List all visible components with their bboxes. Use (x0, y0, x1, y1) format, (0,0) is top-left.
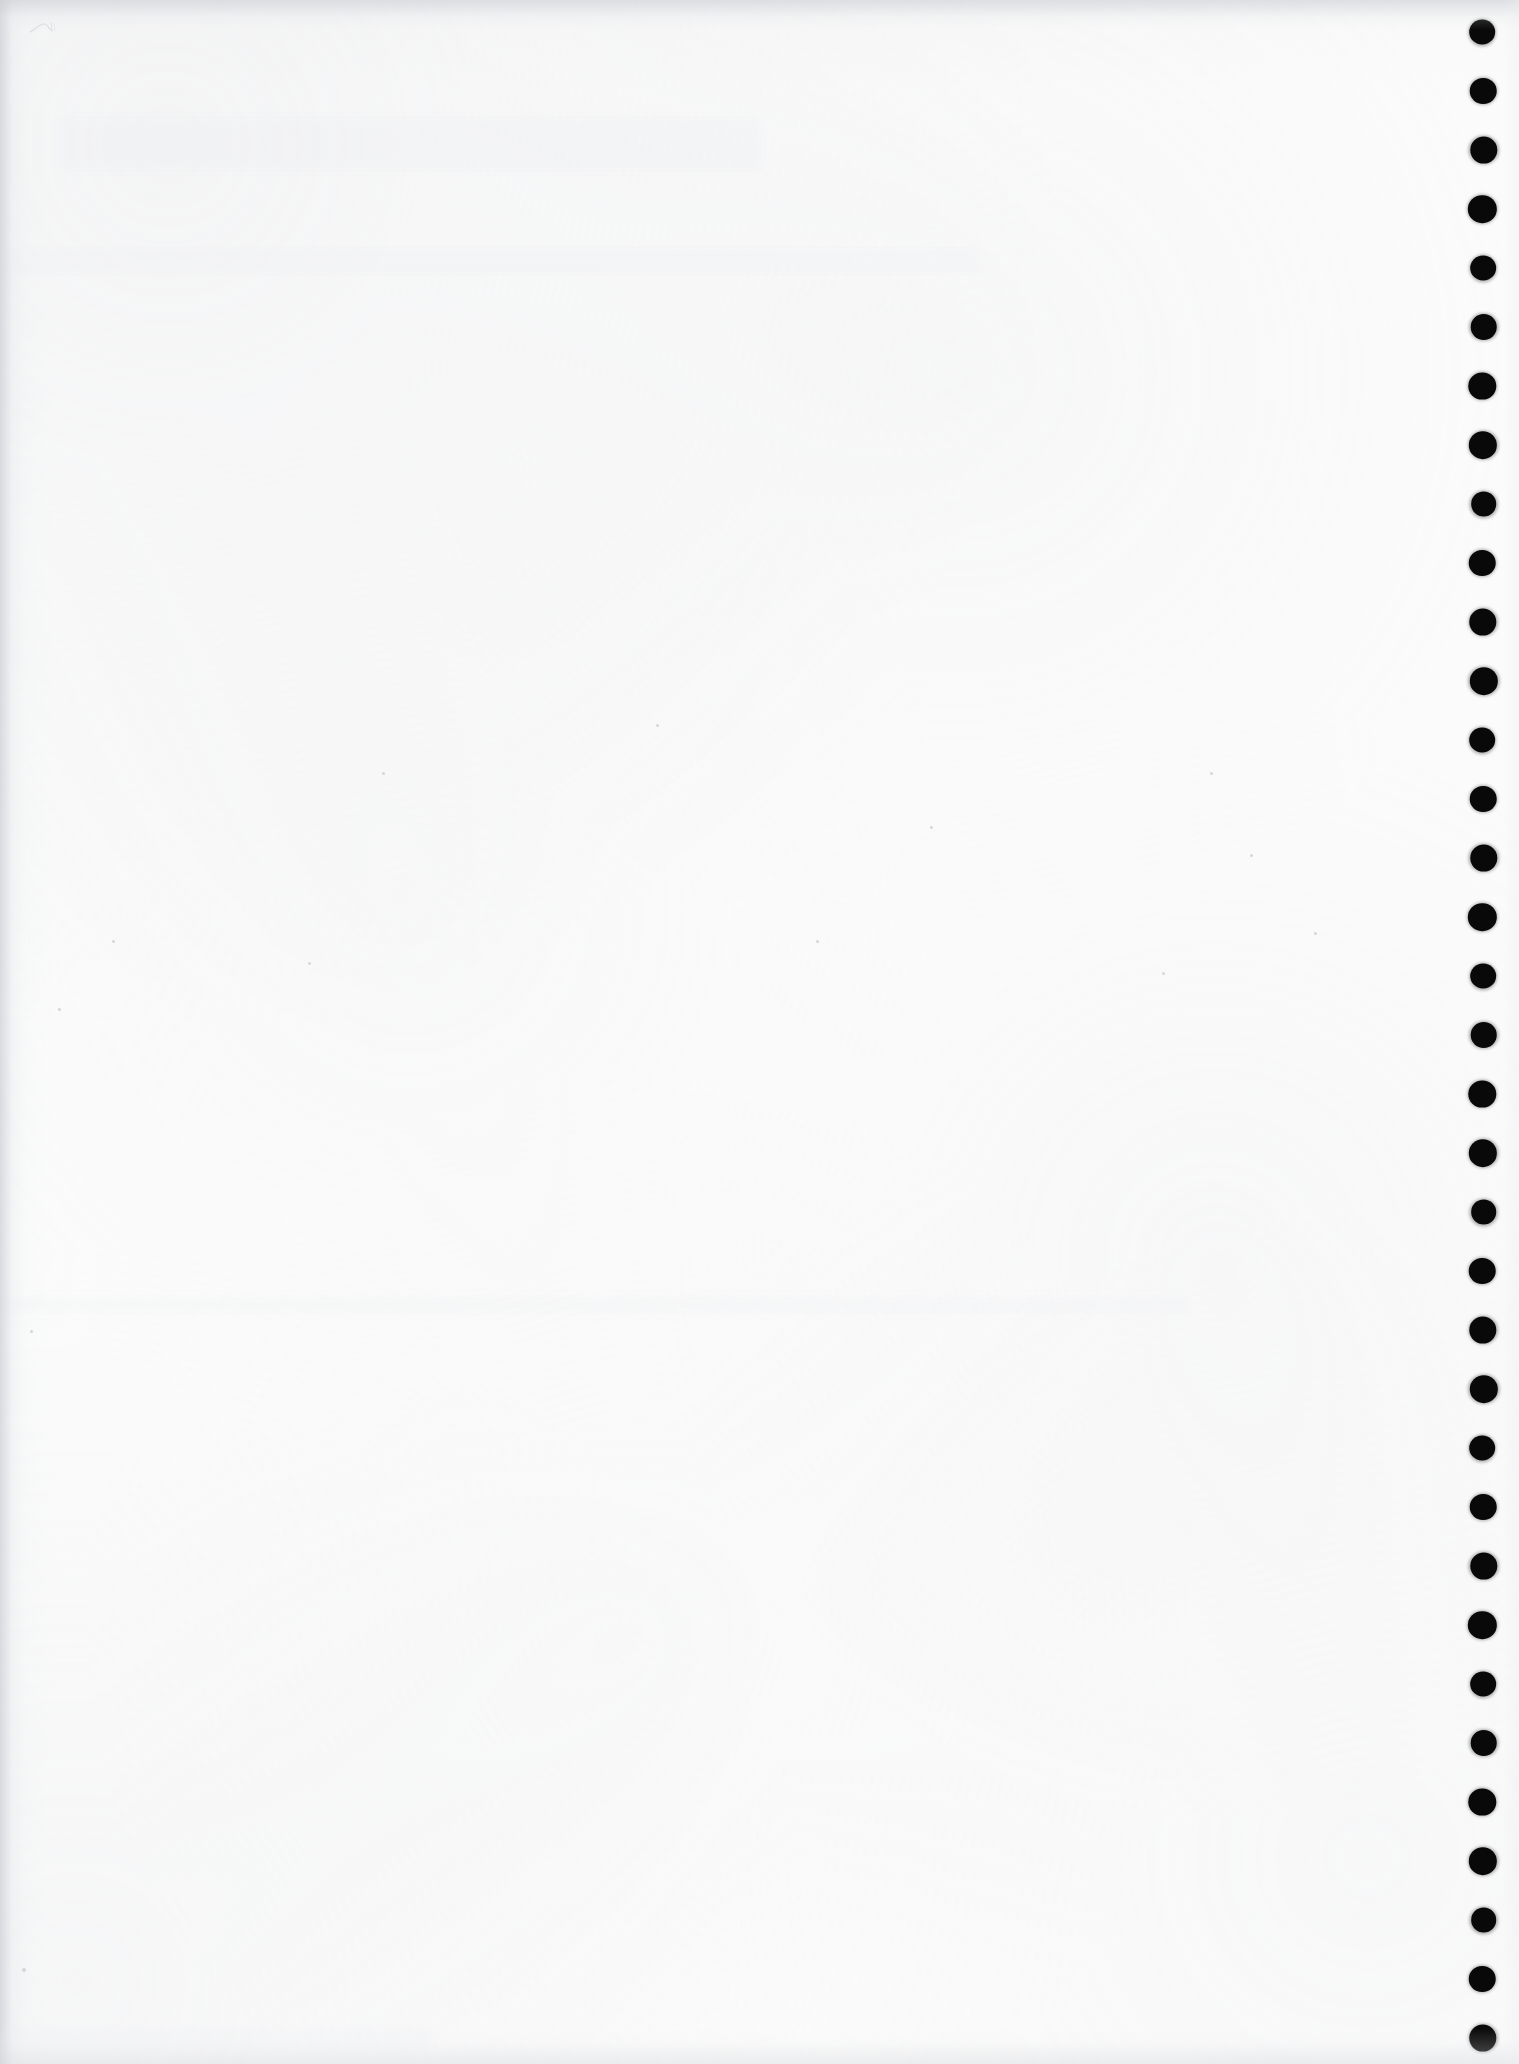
paper-background (0, 0, 1519, 2064)
scanned-page (0, 0, 1519, 2064)
